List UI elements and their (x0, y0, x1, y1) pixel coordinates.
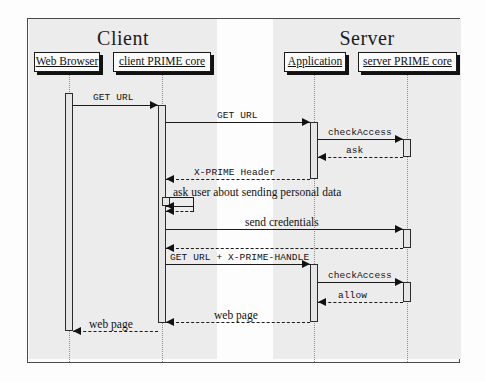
activation-bar-web-browser (65, 93, 73, 331)
object-box-client-prime-core[interactable]: client PRIME core (113, 52, 211, 72)
message-line-check-access-1 (318, 139, 403, 140)
message-line-check-access-2 (318, 282, 403, 283)
arrowhead-get-url-browser-to-core (150, 101, 158, 109)
message-line-get-url-x-prime-handle (166, 264, 310, 265)
object-label-application: Application (288, 56, 342, 68)
arrowhead-get-url-core-to-app (302, 118, 310, 126)
partition-title-client: Client (29, 27, 217, 50)
message-line-x-prime-header (166, 179, 310, 180)
arrowhead-x-prime-header (166, 175, 174, 183)
arrowhead-send-credentials (395, 225, 403, 233)
message-line-self-call-out-side (193, 197, 194, 206)
message-line-web-page-app-to-core (166, 322, 310, 323)
activation-bar-server-prime-core (403, 229, 411, 248)
object-label-server-prime-core: server PRIME core (363, 56, 452, 68)
message-line-send-credentials (166, 229, 403, 230)
message-label-web-page-core-to-browser: web page (89, 319, 133, 331)
message-line-get-url-core-to-app (166, 122, 310, 123)
message-label-ask-user-note: ask user about sending personal data (173, 187, 341, 199)
partition-title-server: Server (273, 27, 461, 50)
diagram-canvas: ClientServerWeb Browserclient PRIME core… (0, 0, 485, 382)
message-label-web-page-app-to-core: web page (214, 310, 258, 322)
object-label-web-browser: Web Browser (36, 56, 99, 68)
message-line-credentials-return (166, 248, 403, 249)
message-label-get-url-browser-to-core: GET URL (93, 93, 134, 103)
message-label-get-url-core-to-app: GET URL (217, 111, 258, 121)
arrowhead-web-page-core-to-browser (73, 327, 81, 335)
activation-bar-application (310, 122, 318, 179)
arrowhead-credentials-return (166, 244, 174, 252)
message-label-check-access-2: checkAccess (328, 271, 392, 281)
object-box-server-prime-core[interactable]: server PRIME core (358, 52, 457, 72)
message-label-x-prime-header: X-PRIME Header (194, 168, 275, 178)
arrowhead-check-access-1 (395, 135, 403, 143)
activation-bar-server-prime-core (403, 139, 411, 157)
message-line-ask-return (318, 157, 403, 158)
arrowhead-web-page-app-to-core (166, 318, 174, 326)
message-line-self-call-return-side (193, 206, 194, 212)
arrowhead-allow-return (318, 298, 326, 306)
lifeline-server-prime-core (407, 72, 408, 362)
message-label-get-url-x-prime-handle: GET URL + X-PRIME-HANDLE (170, 253, 309, 263)
message-line-web-page-core-to-browser (73, 331, 158, 332)
message-label-ask-return: ask (346, 146, 363, 156)
arrowhead-ask-return (318, 153, 326, 161)
activation-bar-server-prime-core (403, 282, 411, 302)
activation-bar-client-prime-core (158, 105, 166, 323)
arrowhead-check-access-2 (395, 278, 403, 286)
message-line-allow-return (318, 302, 403, 303)
message-line-get-url-browser-to-core (73, 105, 158, 106)
arrowhead-self-call-return (166, 207, 174, 215)
object-box-web-browser[interactable]: Web Browser (34, 52, 100, 72)
diagram-frame: ClientServerWeb Browserclient PRIME core… (27, 18, 460, 363)
message-line-self-call-out-top (166, 197, 193, 198)
message-label-allow-return: allow (338, 291, 367, 301)
object-label-client-prime-core: client PRIME core (119, 56, 205, 68)
message-label-check-access-1: checkAccess (328, 128, 392, 138)
object-box-application[interactable]: Application (284, 52, 346, 72)
activation-bar-application (310, 264, 318, 322)
message-label-send-credentials: send credentials (245, 217, 319, 229)
